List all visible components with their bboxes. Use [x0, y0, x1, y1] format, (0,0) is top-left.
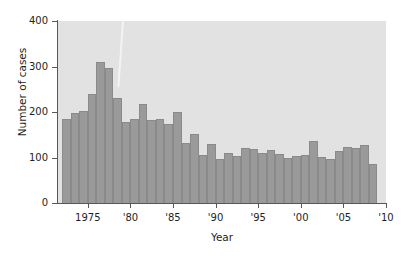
x-axis-tick	[386, 203, 387, 208]
x-axis-tick	[173, 203, 174, 208]
bar	[147, 120, 156, 203]
bar	[62, 119, 71, 203]
bar	[335, 151, 344, 203]
bar	[156, 119, 165, 203]
bar	[233, 156, 242, 203]
x-axis-tick	[343, 203, 344, 208]
bar	[113, 98, 122, 203]
bar	[216, 159, 225, 203]
bar	[241, 148, 250, 203]
bar	[173, 112, 182, 203]
y-axis-tick	[52, 67, 58, 68]
x-axis-tick	[88, 203, 89, 208]
x-axis-tick	[258, 203, 259, 208]
y-axis-tick	[52, 112, 58, 113]
bar	[292, 156, 301, 203]
x-axis-tick	[216, 203, 217, 208]
x-axis-tick	[301, 203, 302, 208]
x-axis-tick-label: 1975	[75, 212, 100, 223]
bar	[105, 68, 114, 203]
x-axis-label: Year	[58, 231, 386, 243]
bar	[71, 113, 80, 203]
x-axis-tick-label: '90	[208, 212, 223, 223]
bar	[88, 94, 97, 203]
y-axis-label: Number of cases	[16, 22, 28, 162]
y-axis-tick-label: 200	[29, 107, 48, 117]
bar	[360, 145, 369, 203]
x-axis-tick-label: '05	[336, 212, 351, 223]
bar	[250, 149, 259, 203]
bar	[275, 154, 284, 203]
bar-series	[58, 21, 386, 203]
plot-area	[58, 21, 386, 203]
bar	[96, 62, 105, 203]
x-axis-tick	[130, 203, 131, 208]
bar	[352, 148, 361, 204]
bar	[318, 157, 327, 203]
bar	[139, 104, 148, 203]
x-axis-tick-label: '80	[123, 212, 138, 223]
bar	[301, 155, 310, 203]
bar	[130, 119, 139, 203]
bar	[258, 153, 267, 203]
y-axis-tick	[52, 21, 58, 22]
chart-figure: 0100200300400 1975'80'85'90'95'00'05'10 …	[0, 0, 406, 260]
bar	[199, 155, 208, 203]
bar	[224, 153, 233, 203]
bar	[190, 134, 199, 203]
y-axis-tick-label: 400	[29, 16, 48, 26]
y-axis-tick-label: 300	[29, 62, 48, 72]
y-axis-tick-label: 0	[42, 198, 48, 208]
bar	[326, 159, 335, 203]
bar	[284, 158, 293, 204]
x-axis-line	[57, 203, 387, 204]
bar	[182, 143, 191, 203]
x-axis-tick-label: '85	[165, 212, 180, 223]
bar	[369, 164, 378, 203]
x-axis-tick-label: '95	[250, 212, 265, 223]
y-axis-tick-label: 100	[29, 153, 48, 163]
bar	[267, 150, 276, 203]
x-axis-tick-label: '00	[293, 212, 308, 223]
bar	[164, 124, 173, 203]
bar	[122, 122, 131, 203]
x-axis-tick-label: '10	[378, 212, 393, 223]
bar	[207, 144, 216, 203]
y-axis-tick	[52, 158, 58, 159]
y-axis-tick	[52, 203, 58, 204]
bar	[79, 111, 88, 203]
bar	[309, 141, 318, 203]
bar	[343, 147, 352, 203]
